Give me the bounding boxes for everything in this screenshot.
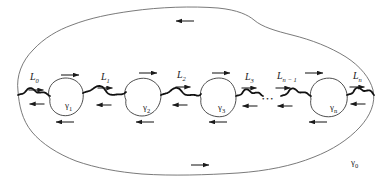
diagram-svg xyxy=(0,0,391,189)
cut-line-3 xyxy=(236,89,263,96)
cut-label-L2-subscript: 2 xyxy=(183,75,186,82)
cut-line-4 xyxy=(281,88,311,96)
cut-label-Ln-1: Ln − 1 xyxy=(277,71,297,84)
figure-canvas: • • • L0L1L2L3Ln − 1Lnγ1γ2γ3γnγ0 xyxy=(0,0,391,189)
cut-lines xyxy=(18,86,374,96)
contour-label-gamma1: γ1 xyxy=(65,101,72,112)
cut-label-L1: L1 xyxy=(101,72,110,85)
cut-line-5 xyxy=(347,88,374,95)
contour-label-gamma3: γ3 xyxy=(218,103,225,114)
inner-boundary-curves xyxy=(49,78,348,117)
cut-label-Ln-1-subscript: n − 1 xyxy=(283,76,297,83)
cut-label-L3-subscript: 3 xyxy=(251,77,254,84)
direction-arrows xyxy=(29,21,366,165)
contour-label-gamma0: γ0 xyxy=(351,158,358,169)
contour-label-gamma2-subscript: 2 xyxy=(147,107,150,114)
contour-label-gamman: γn xyxy=(330,103,337,114)
cut-label-Ln-subscript: n xyxy=(359,76,362,83)
inner-boundary-4 xyxy=(310,78,347,117)
cut-line-2 xyxy=(161,88,201,96)
cut-line-1 xyxy=(83,86,126,95)
contour-label-gamma3-subscript: 3 xyxy=(222,107,225,114)
contour-label-gamman-subscript: n xyxy=(334,107,337,114)
contour-label-gamma0-subscript: 0 xyxy=(355,162,358,169)
outer-boundary-curve xyxy=(18,7,374,175)
cut-label-L0: L0 xyxy=(30,72,39,85)
ellipsis-dots: • • • xyxy=(262,96,273,103)
cut-label-L2: L2 xyxy=(177,70,186,83)
contour-label-gamma2: γ2 xyxy=(143,103,150,114)
contour-label-gamma1-subscript: 1 xyxy=(69,105,72,112)
cut-label-Ln: Ln xyxy=(353,71,362,84)
cut-label-L3: L3 xyxy=(245,72,254,85)
cut-label-L1-subscript: 1 xyxy=(107,77,110,84)
cut-line-0 xyxy=(18,88,50,96)
cut-label-L0-subscript: 0 xyxy=(36,77,39,84)
